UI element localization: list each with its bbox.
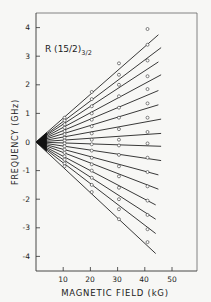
- data-point-circle: [63, 162, 66, 165]
- zeeman-line: [36, 142, 156, 254]
- x-tick-label-30: 30: [112, 275, 122, 284]
- data-point-circle: [63, 119, 66, 122]
- zeeman-chart: 4 3 2 1 0 -1 -2 -3 -4 10 20 30 40 50 MAG…: [0, 0, 211, 302]
- data-point-circle: [63, 126, 66, 129]
- x-tick-label-50: 50: [167, 275, 177, 284]
- data-point-circle: [117, 83, 120, 86]
- data-point-circle: [146, 228, 149, 231]
- data-point-circle: [63, 155, 66, 158]
- data-point-circle: [63, 145, 66, 148]
- data-point-circle: [117, 175, 120, 178]
- data-point-circle: [146, 88, 149, 91]
- y-tick-label-3: 3: [25, 52, 30, 61]
- data-point-circle: [63, 116, 66, 119]
- data-point-circle: [117, 165, 120, 168]
- y-tick-label-m4: -4: [23, 252, 31, 261]
- y-tick-label-m2: -2: [23, 195, 31, 204]
- data-point-circle: [63, 151, 66, 154]
- data-point-circle: [90, 163, 93, 166]
- x-tick-label-20: 20: [85, 275, 95, 284]
- data-point-circle: [63, 142, 66, 145]
- chart-title-main: R (15/2): [45, 44, 81, 54]
- data-point-circle: [117, 208, 120, 211]
- data-point-circle: [90, 191, 93, 194]
- data-point-circle: [90, 132, 93, 135]
- zeeman-line: [36, 142, 158, 175]
- data-point-circle: [90, 183, 93, 186]
- zeeman-line: [36, 142, 156, 219]
- data-point-circle: [146, 130, 149, 133]
- zeeman-lines: [36, 35, 161, 254]
- data-point-circle: [90, 176, 93, 179]
- data-point-circle: [63, 130, 66, 133]
- y-tick-label-4: 4: [25, 23, 30, 32]
- x-ticks: [63, 267, 172, 271]
- data-point-circle: [146, 28, 149, 31]
- data-point-circle: [90, 143, 93, 146]
- data-point-circle: [63, 165, 66, 168]
- y-axis-label: FREQUENCY (GHz): [11, 99, 20, 185]
- data-point-circle: [63, 136, 66, 139]
- data-point-circle: [90, 98, 93, 101]
- data-point-circle: [90, 118, 93, 121]
- zeeman-line: [36, 142, 161, 161]
- data-point-circle: [63, 133, 66, 136]
- data-point-circle: [117, 62, 120, 65]
- chart-title: R (15/2)3/2: [45, 44, 92, 57]
- data-point-circle: [146, 102, 149, 105]
- data-point-circle: [146, 171, 149, 174]
- data-point-circle: [117, 116, 120, 119]
- zeeman-line: [36, 75, 161, 142]
- data-point-circle: [146, 59, 149, 62]
- zeeman-line: [36, 62, 158, 142]
- data-point-circle: [146, 156, 149, 159]
- data-point-circle: [117, 198, 120, 201]
- data-point-circle: [117, 218, 120, 221]
- y-tick-label-m3: -3: [23, 223, 31, 232]
- data-point-circle: [117, 138, 120, 141]
- data-point-circle: [90, 125, 93, 128]
- chart-title-subscript: 3/2: [81, 49, 91, 57]
- data-point-circle: [117, 106, 120, 109]
- data-point-circle: [90, 138, 93, 141]
- data-point-circle: [117, 144, 120, 147]
- data-point-circle: [146, 199, 149, 202]
- x-tick-label-10: 10: [58, 275, 68, 284]
- data-point-circle: [90, 112, 93, 115]
- data-point-circle: [90, 156, 93, 159]
- data-point-circle: [146, 142, 149, 145]
- y-tick-label-2: 2: [25, 80, 30, 89]
- data-point-circle: [146, 241, 149, 244]
- y-tick-label-m1: -1: [23, 166, 31, 175]
- data-point-circle: [90, 90, 93, 93]
- zeeman-line: [36, 142, 156, 205]
- data-point-circle: [90, 169, 93, 172]
- zeeman-line: [36, 91, 158, 142]
- data-point-circle: [117, 128, 120, 131]
- zeeman-line: [36, 142, 158, 189]
- data-point-circle: [146, 185, 149, 188]
- zeeman-line: [36, 133, 161, 142]
- data-point-circle: [63, 123, 66, 126]
- y-tick-label-1: 1: [25, 109, 30, 118]
- data-point-circle: [63, 139, 66, 142]
- data-point-circle: [117, 73, 120, 76]
- data-point-circle: [146, 75, 149, 78]
- data-point-circle: [90, 149, 93, 152]
- data-point-circle: [117, 95, 120, 98]
- data-point-circle: [117, 186, 120, 189]
- data-point-circle: [146, 43, 149, 46]
- data-point-circle: [117, 153, 120, 156]
- zeeman-line: [36, 142, 161, 146]
- y-tick-label-0: 0: [25, 138, 30, 147]
- x-tick-label-40: 40: [139, 275, 149, 284]
- data-point-circle: [146, 116, 149, 119]
- data-point-circle: [63, 148, 66, 151]
- chart-canvas: 4 3 2 1 0 -1 -2 -3 -4 10 20 30 40 50 MAG…: [0, 0, 211, 302]
- zeeman-line: [36, 142, 156, 234]
- x-axis-label: MAGNETIC FIELD (kG): [61, 288, 169, 298]
- zeeman-line: [36, 48, 161, 142]
- data-point-circle: [146, 213, 149, 216]
- data-point-circle: [90, 105, 93, 108]
- origin-convergence: [36, 132, 47, 152]
